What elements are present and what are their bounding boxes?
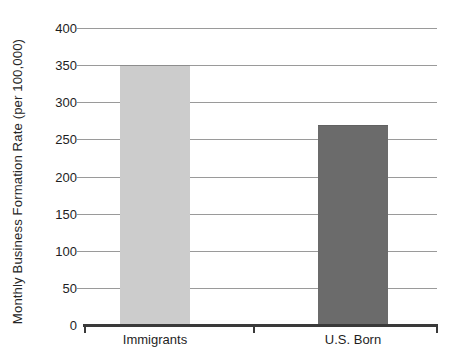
y-tick-mark-350: [77, 65, 83, 66]
y-tick-mark-100: [77, 251, 83, 252]
y-tick-mark-250: [77, 139, 83, 140]
y-axis-title: Monthly Business Formation Rate (per 100…: [0, 0, 34, 363]
y-tick-label-0: 0: [31, 318, 77, 333]
y-tick-label-300: 300: [31, 95, 77, 110]
bar-top-edge: [318, 125, 388, 126]
x-axis-line: [83, 324, 438, 327]
y-tick-mark-50: [77, 288, 83, 289]
x-category-label-0: Immigrants: [123, 332, 187, 347]
y-tick-label-400: 400: [31, 21, 77, 36]
y-tick-label-50: 50: [31, 280, 77, 295]
y-tick-label-200: 200: [31, 169, 77, 184]
y-tick-label-350: 350: [31, 58, 77, 73]
x-axis-tick-1: [253, 324, 255, 333]
x-category-label-1: U.S. Born: [325, 332, 381, 347]
gridline-400: [83, 28, 437, 29]
y-tick-label-250: 250: [31, 132, 77, 147]
bar-chart: Monthly Business Formation Rate (per 100…: [0, 0, 459, 363]
bar-immigrants: [120, 65, 190, 325]
x-axis-tick-2: [436, 324, 438, 333]
y-tick-mark-200: [77, 177, 83, 178]
y-tick-mark-150: [77, 214, 83, 215]
y-tick-label-100: 100: [31, 243, 77, 258]
y-tick-mark-400: [77, 28, 83, 29]
bar-top-edge: [120, 65, 190, 66]
bar-u-s-born: [318, 125, 388, 325]
y-tick-label-150: 150: [31, 206, 77, 221]
plot-area: [83, 28, 437, 325]
y-tick-mark-300: [77, 102, 83, 103]
x-axis-tick-0: [84, 324, 86, 333]
